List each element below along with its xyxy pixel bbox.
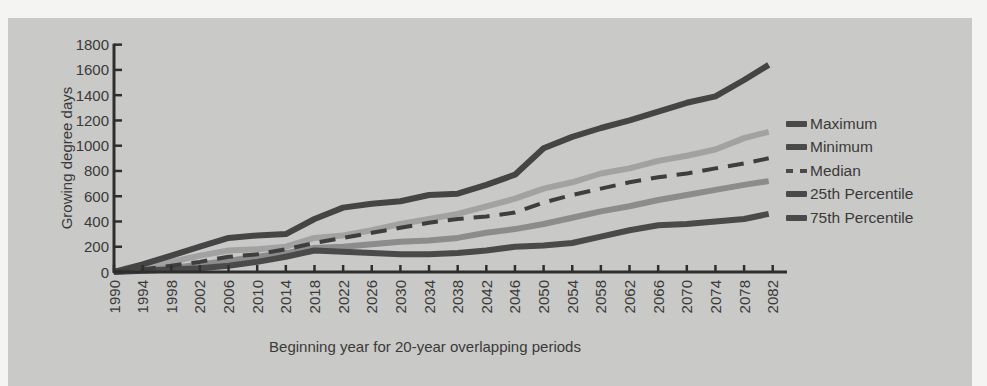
y-tick-label: 1000 [76, 137, 109, 154]
y-tick-label: 0 [101, 264, 109, 281]
x-tick-label: 2046 [506, 280, 523, 313]
x-tick-label: 2062 [621, 280, 638, 313]
legend-label: Minimum [810, 138, 873, 156]
y-tick-label: 400 [84, 213, 109, 230]
x-tick-label: 2058 [592, 280, 609, 313]
x-tick-label: 2042 [478, 280, 495, 313]
x-tick-label: 1998 [163, 280, 180, 313]
legend-item-maximum: Maximum [786, 112, 913, 136]
x-tick-label: 2054 [564, 280, 581, 313]
x-tick-label: 2030 [392, 280, 409, 313]
legend-label: Maximum [810, 115, 877, 133]
x-tick-label: 1990 [106, 280, 123, 313]
y-tick-label: 1200 [76, 112, 109, 129]
y-tick-label: 800 [84, 162, 109, 179]
x-tick-label: 2006 [220, 280, 237, 313]
x-axis-title: Beginning year for 20-year overlapping p… [269, 338, 581, 355]
legend-swatch-icon [786, 191, 807, 197]
x-tick-label: 2002 [191, 280, 208, 313]
x-tick-label: 2018 [306, 280, 323, 313]
x-tick-label: 2078 [736, 280, 753, 313]
x-tick-label: 2066 [650, 280, 667, 313]
y-tick-label: 600 [84, 188, 109, 205]
x-tick-label: 1994 [134, 280, 151, 313]
x-tick-label: 2026 [363, 280, 380, 313]
x-tick-label: 2082 [764, 280, 781, 313]
x-tick-label: 2010 [249, 280, 266, 313]
x-tick-label: 2014 [277, 280, 294, 313]
legend-item-25th-percentile: 25th Percentile [786, 183, 913, 207]
legend-label: Median [810, 162, 861, 180]
x-tick-label: 2022 [335, 280, 352, 313]
legend-item-75th-percentile: 75th Percentile [786, 206, 913, 230]
legend-label: 75th Percentile [810, 209, 913, 227]
series-layer [114, 65, 769, 272]
legend-swatch-icon [786, 215, 807, 221]
y-tick-label: 1800 [76, 36, 109, 53]
legend-item-median: Median [786, 159, 913, 183]
y-axis-title: Growing degree days [58, 87, 75, 230]
legend-swatch-icon [786, 121, 807, 127]
legend-dashed-swatch-icon [786, 169, 807, 173]
y-tick-label: 1600 [76, 61, 109, 78]
legend-item-minimum: Minimum [786, 136, 913, 160]
y-tick-label: 1400 [76, 87, 109, 104]
x-tick-label: 2034 [421, 280, 438, 313]
y-tick-label: 200 [84, 238, 109, 255]
x-tick-label: 2050 [535, 280, 552, 313]
legend-swatch-icon [786, 144, 807, 150]
x-tick-label: 2038 [449, 280, 466, 313]
legend: Maximum Minimum Median 25th Percentile 7… [786, 112, 913, 230]
x-tick-label: 2074 [707, 280, 724, 313]
legend-label: 25th Percentile [810, 185, 913, 203]
x-tick-label: 2070 [678, 280, 695, 313]
